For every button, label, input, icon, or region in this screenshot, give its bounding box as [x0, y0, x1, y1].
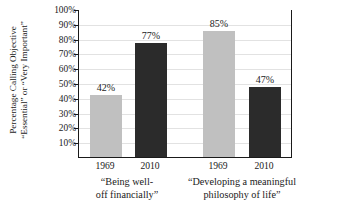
- y-axis-tick-mark: [74, 114, 79, 115]
- y-axis-tick-label: 80%: [36, 35, 76, 45]
- bar: 85%: [203, 31, 235, 157]
- bar-value-label: 85%: [210, 18, 228, 29]
- group-caption-line-2: philosophy of life”: [188, 189, 296, 202]
- y-axis-tick-mark: [74, 69, 79, 70]
- x-axis-group-caption: “Being well-off financially”: [96, 176, 158, 201]
- x-axis-year-label: 1969: [95, 160, 114, 172]
- group-caption-line-1: “Developing a meaningful: [188, 176, 296, 189]
- y-axis-tick-label: 60%: [36, 64, 76, 74]
- y-axis-tick-label: 90%: [36, 20, 76, 30]
- y-axis-tick-label: 20%: [36, 123, 76, 133]
- y-axis-title-line-2: “Essential” or “Very Important”: [19, 21, 30, 139]
- x-axis-group-captions: “Being well-off financially”“Developing …: [60, 176, 339, 210]
- group-caption-line-1: “Being well-: [96, 176, 158, 189]
- y-axis-title-line-1: Percentage Calling Objective: [8, 26, 19, 134]
- y-axis-tick-label: 10%: [36, 138, 76, 148]
- y-axis-tick-mark: [74, 128, 79, 129]
- y-axis-tick-label: 70%: [36, 49, 76, 59]
- y-axis-tick-label: 40%: [36, 94, 76, 104]
- plot-area: 42%77%85%47%: [78, 10, 292, 158]
- bar-value-label: 42%: [97, 82, 115, 93]
- y-axis-tick-mark: [74, 25, 79, 26]
- bar: 42%: [90, 95, 122, 157]
- y-axis-tick-mark: [74, 99, 79, 100]
- bar-value-label: 77%: [142, 30, 160, 41]
- y-axis-tick-mark: [74, 84, 79, 85]
- x-axis-group-caption: “Developing a meaningfulphilosophy of li…: [188, 176, 296, 201]
- y-axis-tick-mark: [74, 143, 79, 144]
- y-axis-tick-mark: [74, 54, 79, 55]
- y-axis-tick-mark: [74, 40, 79, 41]
- y-axis-tick-label: 50%: [36, 79, 76, 89]
- x-axis-year-label: 1969: [208, 160, 227, 172]
- group-caption-line-2: off financially”: [96, 189, 158, 202]
- x-axis-year-labels: 1969201019692010: [78, 160, 292, 174]
- bar-value-label: 47%: [256, 74, 274, 85]
- y-axis-tick-label: 30%: [36, 109, 76, 119]
- x-axis-year-label: 2010: [140, 160, 159, 172]
- bar: 77%: [135, 43, 167, 157]
- y-axis-title: Percentage Calling Objective “Essential”…: [0, 0, 38, 160]
- bar: 47%: [249, 87, 281, 157]
- x-axis-year-label: 2010: [254, 160, 273, 172]
- y-axis-tick-labels: 100%90%80%70%60%50%40%30%20%10%: [36, 10, 76, 158]
- bar-series: 42%77%85%47%: [79, 10, 291, 157]
- y-axis-tick-mark: [74, 10, 79, 11]
- y-axis-tick-label: 100%: [36, 5, 76, 15]
